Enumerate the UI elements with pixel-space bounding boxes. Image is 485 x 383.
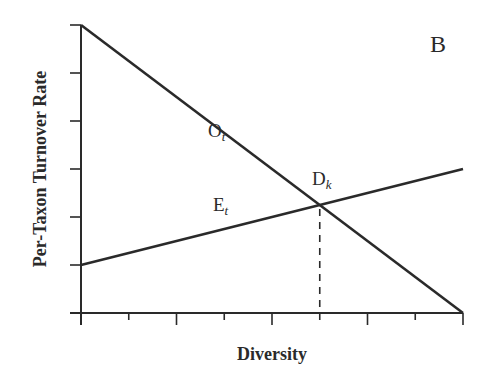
x-axis-title: Diversity	[237, 344, 307, 364]
series-lines	[81, 25, 463, 313]
axes	[70, 25, 463, 325]
ticks	[70, 25, 463, 325]
series-label-extinction: Et	[213, 194, 229, 218]
series-label-origination: Ot	[208, 120, 226, 144]
y-axis-title: Per-Taxon Turnover Rate	[30, 71, 50, 267]
series-line-o	[81, 25, 463, 313]
panel-label: B	[430, 31, 446, 57]
series-line-e	[81, 169, 463, 265]
equilibrium-label: Dk	[312, 168, 332, 192]
chart: B Diversity Per-Taxon Turnover Rate Ot E…	[0, 0, 485, 383]
